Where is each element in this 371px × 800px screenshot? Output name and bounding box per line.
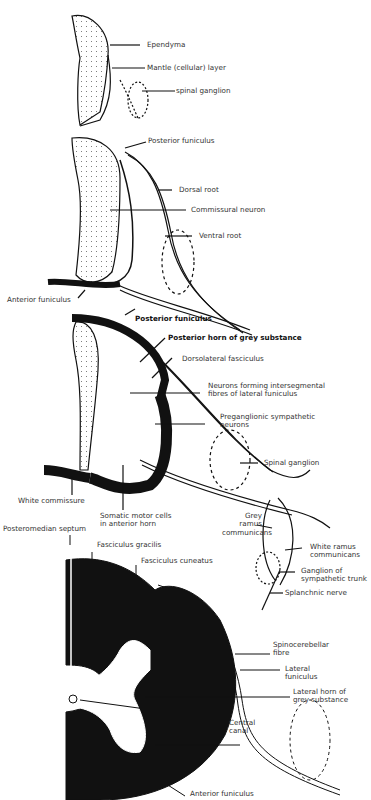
label-dorsal-root: Dorsal root xyxy=(179,186,219,194)
label-fasciculus-cuneatus: Fasciculus cuneatus xyxy=(141,557,213,565)
label-white-commissure: White commissure xyxy=(18,497,85,505)
label-spinal-ganglion-3: Spinal ganglion xyxy=(264,459,319,467)
label-dorsolateral-fasciculus: Dorsolateral fasciculus xyxy=(182,355,264,363)
label-white-ramus: White ramus communicans xyxy=(310,543,360,560)
label-lateral-funiculus: Lateral funiculus xyxy=(285,665,317,682)
label-commissural-neuron: Commissural neuron xyxy=(191,206,265,214)
label-anterior-funiculus-4: Anterior funiculus xyxy=(190,790,254,798)
label-sympathetic-ganglion: Ganglion of sympathetic trunk xyxy=(301,567,367,584)
label-spinocerebellar-fibre: Spinocerebellar fibre xyxy=(273,641,329,658)
label-anterior-funiculus-2: Anterior funiculus xyxy=(7,296,71,304)
label-spinal-ganglion-1: spinal ganglion xyxy=(176,87,231,95)
label-ependyma: Ependyma xyxy=(147,41,185,49)
label-fasciculus-gracilis: Fasciculus gracilis xyxy=(97,541,161,549)
label-ventral-root: Ventral root xyxy=(199,232,241,240)
label-lateral-horn: Lateral horn of grey substance xyxy=(293,688,348,705)
label-splanchnic-nerve: Splanchnic nerve xyxy=(285,589,347,597)
label-mantle-layer: Mantle (cellular) layer xyxy=(147,64,226,72)
label-posterior-funiculus-2: Posterior funiculus xyxy=(148,137,215,145)
label-posterior-funiculus-3: Posterior funiculus xyxy=(135,315,212,323)
label-posterior-horn: Posterior horn of grey substance xyxy=(168,334,302,342)
label-intersegmental-neurons: Neurons forming intersegmental fibres of… xyxy=(208,382,325,399)
label-central-canal: Central canal xyxy=(229,719,255,736)
label-grey-ramus: Grey ramus communicans xyxy=(222,512,262,537)
label-somatic-motor-cells: Somatic motor cells in anterior horn xyxy=(100,512,171,529)
label-posteromedian-septum: Posteromedian septum xyxy=(3,525,86,533)
label-preganglionic-neurons: Preganglionic sympathetic neurons xyxy=(220,413,315,430)
